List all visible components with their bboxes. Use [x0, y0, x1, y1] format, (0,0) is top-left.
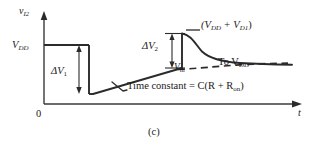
vdd-tick-label: VDD — [12, 40, 28, 51]
delta-v1-arrow — [76, 45, 81, 94]
waveform-figure: vI2 t VDD 0 ΔV1 ΔV2 Vth (VDD + VD1) To V… — [0, 0, 317, 148]
delta-v1-arrowhead-top — [76, 45, 81, 52]
peak-label-sub2: D1 — [240, 24, 248, 31]
peak-label-mid: + V — [221, 19, 240, 30]
peak-label-close: ) — [248, 19, 252, 30]
peak-label-open: (V — [201, 19, 211, 30]
y-axis-arrowhead — [41, 11, 48, 20]
time-constant-text: Time constant = C(R + R — [127, 80, 233, 91]
delta-v1-label: ΔV1 — [51, 66, 67, 77]
delta-v2-label: ΔV2 — [142, 41, 158, 52]
vth-main: V — [174, 62, 180, 72]
peak-label-sub1: DD — [211, 24, 221, 31]
x-axis-label: t — [298, 108, 301, 118]
vth-label: Vth — [174, 63, 185, 73]
delta-v1-main: ΔV — [51, 65, 64, 76]
time-constant-sub: on — [233, 85, 240, 92]
to-vdd-label: To VDD — [218, 57, 249, 68]
delta-v2-main: ΔV — [142, 40, 155, 51]
axes-group — [41, 11, 302, 107]
delta-v2-sub: 2 — [155, 45, 158, 52]
figure-caption: (c) — [148, 127, 160, 138]
time-constant-label: Time constant = C(R + Ron) — [127, 81, 244, 92]
y-axis-label-sub: I2 — [23, 10, 29, 17]
y-axis-label: vI2 — [19, 6, 29, 16]
origin-label: 0 — [36, 109, 41, 120]
vdd-tick-sub: DD — [18, 44, 28, 51]
to-vdd-sub: DD — [239, 61, 249, 68]
delta-v1-arrowhead-bottom — [76, 87, 81, 94]
time-constant-end: ) — [240, 80, 244, 91]
delta-v2-arrowhead-top — [169, 34, 174, 41]
peak-voltage-label: (VDD + VD1) — [201, 20, 252, 31]
vth-sub: th — [180, 66, 185, 73]
to-vdd-main: To V — [218, 56, 239, 67]
delta-v1-sub: 1 — [64, 70, 67, 77]
